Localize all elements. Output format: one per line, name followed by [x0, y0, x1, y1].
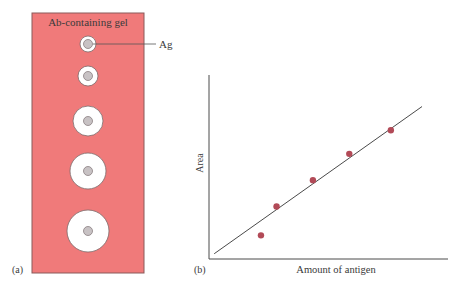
- data-point: [346, 151, 352, 157]
- antigen-well: [84, 117, 93, 126]
- antigen-well: [84, 227, 93, 236]
- data-points: [258, 127, 394, 239]
- panel-b: Area Amount of antigen (b): [194, 75, 448, 276]
- antigen-callout-label: Ag: [159, 38, 173, 50]
- y-axis-label: Area: [194, 153, 205, 173]
- antigen-well: [84, 72, 93, 81]
- x-axis-label: Amount of antigen: [296, 264, 376, 275]
- data-point: [388, 127, 394, 133]
- data-point: [310, 177, 316, 183]
- data-point: [258, 232, 264, 238]
- figure: Ab-containing gel Ag (a) Area Amount of …: [0, 0, 464, 292]
- panel-b-label: (b): [194, 264, 206, 276]
- panel-a-label: (a): [12, 264, 23, 276]
- data-point: [273, 203, 279, 209]
- gel-title: Ab-containing gel: [48, 16, 128, 28]
- antigen-well: [84, 40, 93, 49]
- panel-a: Ab-containing gel Ag (a): [12, 13, 173, 276]
- antigen-well: [84, 167, 93, 176]
